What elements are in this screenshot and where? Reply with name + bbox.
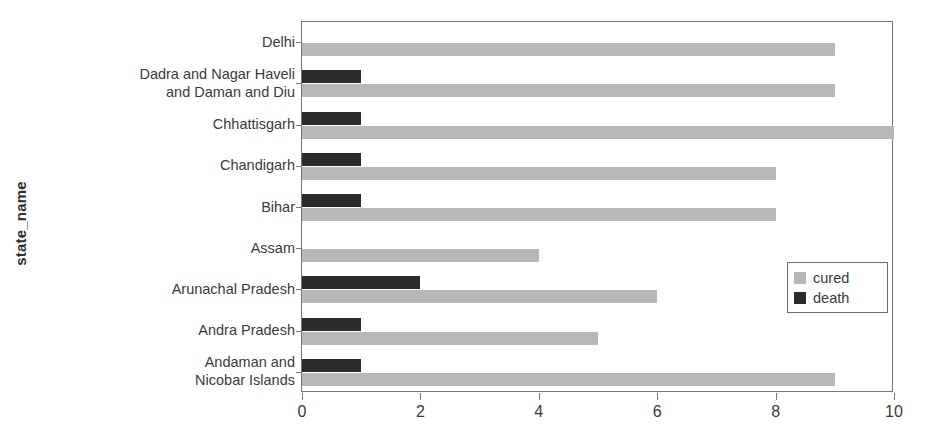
x-axis-tick bbox=[302, 393, 303, 400]
bar-death bbox=[302, 70, 361, 83]
category-axis-labels: DelhiDadra and Nagar Haveli and Daman an… bbox=[40, 21, 295, 392]
bar-death bbox=[302, 153, 361, 166]
category-label: Bihar bbox=[40, 198, 295, 216]
category-label: Assam bbox=[40, 239, 295, 257]
y-axis-title-label: state_name bbox=[12, 181, 29, 266]
bar-chart-figure: state_name DelhiDadra and Nagar Haveli a… bbox=[0, 0, 929, 447]
plot-area: 0246810 bbox=[301, 21, 893, 392]
x-axis-tick-label: 4 bbox=[509, 403, 569, 421]
x-axis-tick-label: 2 bbox=[390, 403, 450, 421]
bar-cured bbox=[302, 373, 835, 386]
category-label: Andra Pradesh bbox=[40, 321, 295, 339]
legend-entry-death[interactable]: death bbox=[794, 288, 881, 308]
x-axis-tick bbox=[420, 393, 421, 400]
x-axis-tick-label: 10 bbox=[864, 403, 924, 421]
bar-cured bbox=[302, 208, 776, 221]
y-axis-title: state_name bbox=[0, 0, 40, 447]
category-label: Chandigarh bbox=[40, 156, 295, 174]
legend-swatch-cured bbox=[794, 272, 806, 284]
x-axis-tick-label: 0 bbox=[272, 403, 332, 421]
x-axis-tick bbox=[539, 393, 540, 400]
bar-cured bbox=[302, 126, 894, 139]
category-label: Andaman and Nicobar Islands bbox=[40, 353, 295, 389]
x-axis-tick-label: 6 bbox=[627, 403, 687, 421]
x-axis-tick-label: 8 bbox=[746, 403, 806, 421]
chart-legend: cured death bbox=[787, 262, 888, 313]
legend-entry-cured[interactable]: cured bbox=[794, 268, 881, 288]
bar-death bbox=[302, 318, 361, 331]
bar-cured bbox=[302, 249, 539, 262]
legend-swatch-death bbox=[794, 292, 806, 304]
bar-death bbox=[302, 276, 420, 289]
category-label: Chhattisgarh bbox=[40, 115, 295, 133]
category-label: Delhi bbox=[40, 33, 295, 51]
category-label: Dadra and Nagar Haveli and Daman and Diu bbox=[40, 65, 295, 101]
bar-death bbox=[302, 359, 361, 372]
category-label: Arunachal Pradesh bbox=[40, 280, 295, 298]
bar-cured bbox=[302, 332, 598, 345]
legend-label-death: death bbox=[813, 291, 849, 306]
x-axis-tick bbox=[657, 393, 658, 400]
bar-death bbox=[302, 112, 361, 125]
legend-label-cured: cured bbox=[813, 271, 849, 286]
bar-cured bbox=[302, 84, 835, 97]
bar-death bbox=[302, 194, 361, 207]
bar-cured bbox=[302, 43, 835, 56]
x-axis-tick bbox=[776, 393, 777, 400]
bar-cured bbox=[302, 167, 776, 180]
x-axis-tick bbox=[894, 393, 895, 400]
bar-cured bbox=[302, 290, 657, 303]
